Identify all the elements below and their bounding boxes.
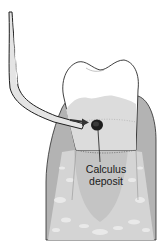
tooth-illustration [0,0,161,242]
calculus-deposit-label: Calculus deposit [78,163,134,187]
dental-calculus-diagram: Calculus deposit [0,0,161,242]
calculus-deposit [91,120,103,131]
label-line-1: Calculus [78,163,134,175]
label-line-2: deposit [78,175,134,187]
